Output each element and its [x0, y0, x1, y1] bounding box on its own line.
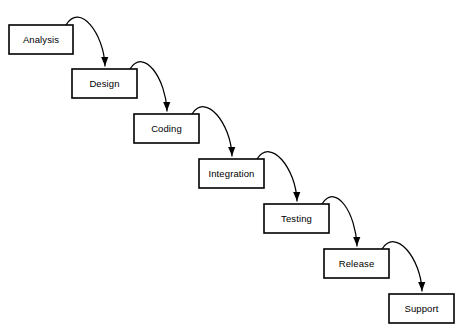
flow-arrow-head-icon [353, 237, 360, 246]
waterfall-diagram: AnalysisDesignCodingIntegrationTestingRe… [0, 0, 458, 335]
phase-box-support[interactable]: Support [389, 294, 454, 323]
phase-box-analysis[interactable]: Analysis [9, 25, 73, 54]
flow-arrow-head-icon [293, 192, 300, 201]
phase-box-label: Integration [209, 168, 255, 179]
phase-box-label: Support [405, 303, 439, 314]
phase-box-label: Release [339, 258, 375, 269]
phase-box-design[interactable]: Design [72, 69, 137, 98]
phase-box-layer: AnalysisDesignCodingIntegrationTestingRe… [9, 25, 454, 323]
phase-box-integration[interactable]: Integration [199, 159, 264, 188]
waterfall-diagram-canvas: AnalysisDesignCodingIntegrationTestingRe… [0, 0, 458, 335]
flow-arrow-head-icon [228, 147, 235, 156]
phase-box-label: Testing [281, 213, 312, 224]
phase-box-coding[interactable]: Coding [134, 114, 199, 143]
phase-box-testing[interactable]: Testing [264, 204, 329, 233]
flow-arrow-head-icon [163, 102, 170, 111]
flow-arrow-head-icon [418, 282, 425, 291]
flow-arrow-head-icon [101, 57, 108, 66]
phase-box-label: Coding [151, 123, 182, 134]
phase-box-label: Analysis [23, 34, 59, 45]
phase-box-label: Design [89, 78, 119, 89]
phase-box-release[interactable]: Release [324, 249, 389, 278]
